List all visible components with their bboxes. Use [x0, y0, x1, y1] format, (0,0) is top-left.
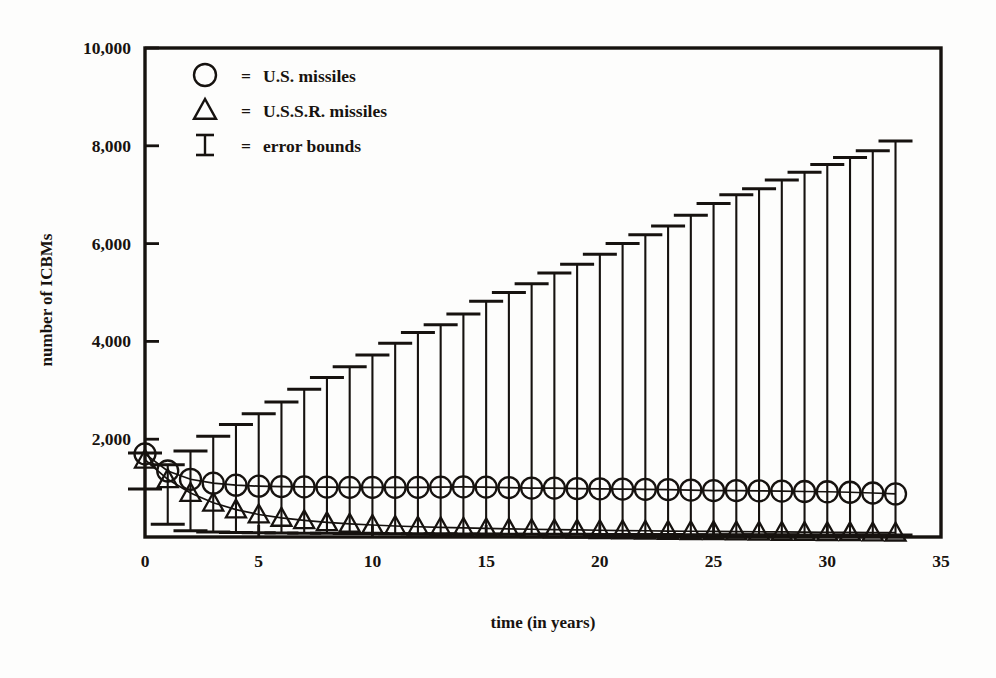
error-bar	[833, 158, 867, 535]
x-tick-label: 35	[932, 551, 950, 571]
error-bar	[697, 204, 731, 535]
x-axis-title: time (in years)	[491, 613, 596, 632]
y-axis: 2,0004,0006,0008,00010,000	[83, 38, 159, 449]
figure-canvas: 2,0004,0006,0008,00010,000 0510152025303…	[0, 0, 996, 678]
legend-triangle-icon	[194, 99, 216, 119]
chart-legend: =U.S. missiles=U.S.S.R. missiles=error b…	[194, 64, 387, 156]
y-tick-label: 6,000	[92, 234, 132, 254]
y-tick-label: 4,000	[92, 331, 132, 351]
error-bar	[333, 367, 367, 534]
error-bar	[719, 195, 753, 535]
legend-label: error bounds	[263, 136, 361, 156]
error-bar	[264, 402, 298, 533]
error-bar	[151, 465, 185, 525]
legend-separator: =	[241, 66, 251, 86]
x-tick-label: 15	[477, 551, 495, 571]
legend-entry: =U.S.S.R. missiles	[194, 99, 387, 121]
x-tick-label: 30	[819, 551, 837, 571]
icbm-error-bound-chart: 2,0004,0006,0008,00010,000 0510152025303…	[0, 0, 996, 678]
legend-circle-icon	[194, 64, 216, 86]
error-bar	[469, 301, 503, 534]
error-bar	[856, 151, 890, 535]
legend-separator: =	[241, 101, 251, 121]
y-axis-title: number of ICBMs	[37, 233, 56, 366]
legend-entry: =U.S. missiles	[194, 64, 356, 86]
axes-box	[145, 48, 941, 537]
error-bar	[378, 343, 412, 533]
legend-entry: =error bounds	[196, 135, 361, 156]
y-tick-label: 2,000	[92, 429, 132, 449]
error-bar	[537, 273, 571, 534]
legend-label: U.S. missiles	[263, 66, 356, 86]
y-tick-label: 8,000	[92, 136, 132, 156]
error-bar	[446, 314, 480, 534]
error-bar	[424, 325, 458, 534]
x-tick-label: 20	[591, 551, 609, 571]
error-bar	[355, 355, 389, 533]
error-bar	[742, 189, 776, 535]
error-bar	[310, 378, 344, 534]
x-tick-label: 0	[141, 551, 150, 571]
error-bar	[401, 333, 435, 534]
error-bar	[515, 284, 549, 535]
legend-label: U.S.S.R. missiles	[263, 101, 387, 121]
ussr-missiles-series	[135, 450, 906, 541]
error-bar	[879, 141, 913, 535]
error-bar	[810, 164, 844, 535]
error-bounds-series	[128, 141, 913, 535]
x-tick-label: 5	[254, 551, 263, 571]
error-bar	[560, 264, 594, 534]
us-missiles-series	[135, 443, 907, 504]
x-tick-label: 25	[705, 551, 723, 571]
plot-frame	[145, 48, 941, 537]
x-tick-label: 10	[364, 551, 382, 571]
y-tick-label: 10,000	[83, 38, 131, 58]
legend-separator: =	[241, 136, 251, 156]
